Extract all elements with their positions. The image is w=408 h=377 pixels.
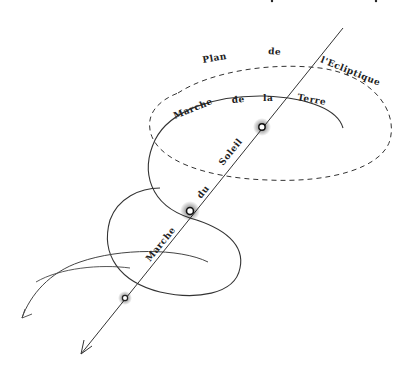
sun-position-1 [253,118,271,136]
label-du: du [195,183,211,200]
label-soleil: Soleil [217,136,245,167]
label-marche-earth: Marche [172,96,214,121]
earth-path-arrowhead [22,309,32,318]
label-la: la [263,93,273,103]
sun-position-3 [118,291,132,305]
top-edge-fragment [375,0,377,2]
label-de-plane: de [268,46,282,57]
sun-position-2 [180,201,200,221]
label-marche-sun: Marche [144,225,178,263]
ecliptic-plane [150,66,392,180]
label-terre: Terre [297,92,327,107]
label-de-earth: de [231,94,245,105]
helical-orbit-diagram: Plan de l'Ecliptique Marche de la Terre … [0,0,408,377]
sun-axis [81,28,343,354]
diagram-canvas: Plan de l'Ecliptique Marche de la Terre … [0,0,408,377]
label-ecliptique: l'Ecliptique [319,55,382,88]
label-plan: Plan [202,51,228,65]
top-edge-fragment [271,0,273,2]
